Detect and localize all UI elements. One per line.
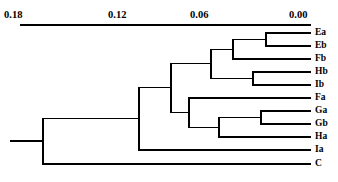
node-n5-stem xyxy=(218,117,262,119)
branch-leaf-Fb xyxy=(232,58,311,60)
leaf-label-Hb: Hb xyxy=(315,67,328,77)
leaf-label-Ea: Ea xyxy=(315,28,326,38)
branch-leaf-Ea xyxy=(265,32,311,34)
leaf-label-Ia: Ia xyxy=(315,145,323,155)
axis-tick-label-2: 0.06 xyxy=(190,9,208,20)
leaf-label-Fb: Fb xyxy=(315,54,326,64)
branch-leaf-Ga xyxy=(260,110,311,112)
leaf-label-Gb: Gb xyxy=(315,119,328,129)
leaf-label-Ha: Ha xyxy=(315,132,327,142)
dendrogram-figure: 0.18 0.12 0.06 0.00 xyxy=(0,0,338,182)
axis-tick-label-3: 0.00 xyxy=(289,9,307,20)
node-n7-stem xyxy=(170,112,190,114)
node-n6-stem xyxy=(188,127,220,129)
node-n3-stem xyxy=(210,78,254,80)
leaf-label-C: C xyxy=(315,159,322,169)
leaf-label-Eb: Eb xyxy=(315,41,327,51)
node-n4-stem xyxy=(170,63,212,65)
node-n1-stem xyxy=(232,39,267,41)
root-stub xyxy=(10,140,44,142)
axis-line xyxy=(20,24,311,26)
leaf-label-Ga: Ga xyxy=(315,106,327,116)
branch-leaf-Ha xyxy=(218,136,311,138)
axis-tick-label-0: 0.18 xyxy=(4,9,22,20)
axis-tick-label-1: 0.12 xyxy=(108,9,126,20)
node-n8-stem xyxy=(138,87,172,89)
branch-leaf-C xyxy=(42,163,311,165)
node-n2-stem xyxy=(210,49,234,51)
leaf-label-Ib: Ib xyxy=(315,80,324,90)
branch-leaf-Ia xyxy=(138,149,311,151)
branch-leaf-Hb xyxy=(252,71,311,73)
leaf-label-Fa: Fa xyxy=(315,93,326,103)
node-n9-stem xyxy=(42,118,140,120)
branch-leaf-Ib xyxy=(252,84,311,86)
branch-leaf-Fa xyxy=(188,97,311,99)
branch-leaf-Gb xyxy=(260,123,311,125)
branch-leaf-Eb xyxy=(265,45,311,47)
